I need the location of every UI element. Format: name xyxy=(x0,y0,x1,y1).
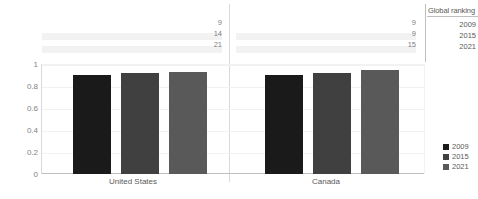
rank-value: 21 xyxy=(192,39,222,50)
y-axis-tick-label: 0.4 xyxy=(4,126,38,135)
bar xyxy=(361,70,399,174)
legend-swatch xyxy=(443,144,449,150)
bar xyxy=(169,72,207,174)
bar xyxy=(313,73,351,174)
rank-value: 14 xyxy=(192,28,222,39)
bar xyxy=(265,75,303,174)
bar xyxy=(73,75,111,174)
header-underline xyxy=(427,16,478,17)
y-axis-tick-label: 0.2 xyxy=(4,148,38,157)
rank-value: 9 xyxy=(386,17,416,28)
year-label: 2015 xyxy=(428,30,478,41)
y-axis-tick-label: 0 xyxy=(4,170,38,179)
legend-item[interactable]: 2015 xyxy=(443,152,469,162)
y-axis: 10.80.60.40.20 xyxy=(0,64,38,174)
rank-annotations-canada: 9 9 15 xyxy=(386,17,416,50)
legend-label: 2021 xyxy=(452,162,469,172)
legend-label: 2015 xyxy=(452,152,469,162)
rank-value: 9 xyxy=(192,17,222,28)
gridline xyxy=(42,65,424,66)
legend: 200920152021 xyxy=(443,142,469,172)
bar xyxy=(121,73,159,174)
year-label: 2021 xyxy=(428,41,478,52)
rank-annotations-united-states: 9 14 21 xyxy=(192,17,222,50)
plot-area xyxy=(41,64,425,174)
legend-item[interactable]: 2009 xyxy=(443,142,469,152)
year-label: 2009 xyxy=(428,19,478,30)
header-divider xyxy=(425,4,426,62)
category-label-canada: Canada xyxy=(266,177,386,186)
y-axis-tick-label: 0.8 xyxy=(4,82,38,91)
y-axis-tick-label: 1 xyxy=(4,60,38,69)
legend-swatch xyxy=(443,154,449,160)
rank-value: 15 xyxy=(386,39,416,50)
rank-value: 9 xyxy=(386,28,416,39)
bar-chart: Global ranking 2009 2015 2021 9 14 21 9 … xyxy=(0,0,478,199)
category-label-united-states: United States xyxy=(73,177,193,186)
y-axis-tick-label: 0.6 xyxy=(4,104,38,113)
global-ranking-header: Global ranking xyxy=(428,6,475,15)
legend-swatch xyxy=(443,164,449,170)
legend-label: 2009 xyxy=(452,142,469,152)
year-column: 2009 2015 2021 xyxy=(428,19,478,52)
legend-item[interactable]: 2021 xyxy=(443,162,469,172)
